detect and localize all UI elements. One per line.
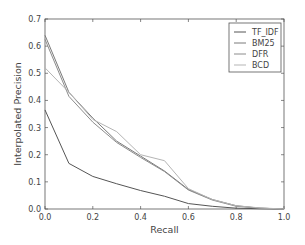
y-tick-label: 0.2 xyxy=(28,151,41,160)
x-tick-label: 0.8 xyxy=(230,213,243,222)
x-tick-label: 0.2 xyxy=(86,213,99,222)
x-tick-label: 0.6 xyxy=(182,213,195,222)
line-chart: 0.00.10.20.30.40.50.60.7 0.00.20.40.60.8… xyxy=(0,0,305,245)
y-tick-label: 0.1 xyxy=(28,178,41,187)
legend: TF_IDFBM25DFRBCD xyxy=(229,23,281,72)
x-axis-label: Recall xyxy=(150,224,178,235)
y-tick-label: 0.5 xyxy=(28,69,41,78)
x-tick-label: 0.4 xyxy=(134,213,147,222)
y-tick-label: 0.4 xyxy=(28,96,41,105)
y-axis-label: Interpolated Precision xyxy=(12,62,23,166)
y-tick-label: 0.3 xyxy=(28,124,41,133)
legend-label: TF_IDF xyxy=(251,28,279,37)
x-tick-label: 0.0 xyxy=(39,213,52,222)
legend-label: DFR xyxy=(252,50,269,59)
y-tick-label: 0.7 xyxy=(28,15,41,24)
legend-label: BCD xyxy=(252,61,269,70)
y-tick-label: 0.6 xyxy=(28,42,41,51)
legend-label: BM25 xyxy=(252,39,275,48)
x-tick-label: 1.0 xyxy=(278,213,291,222)
